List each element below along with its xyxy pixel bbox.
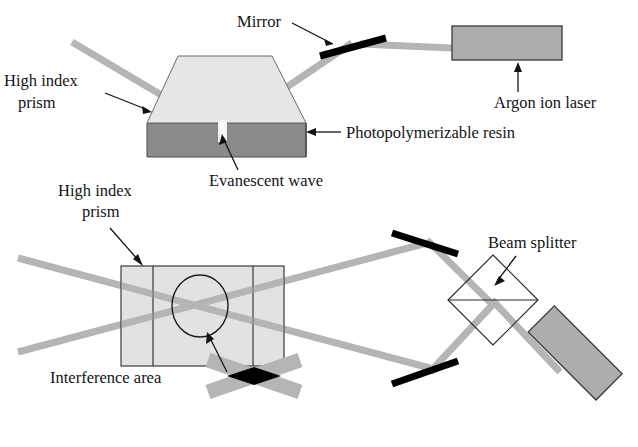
leader-beam-splitter	[494, 256, 516, 286]
figure-canvas: Mirror Argon ion laser High index prism …	[0, 0, 638, 447]
bottom-panel: High index prism Interference area Beam …	[18, 181, 622, 400]
leader-high-index-prism-bottom	[110, 228, 143, 266]
splitter-to-lower-mirror-beam	[430, 300, 497, 372]
leader-mirror	[292, 23, 333, 46]
label-evanescent-wave: Evanescent wave	[209, 171, 323, 190]
label-beam-splitter: Beam splitter	[488, 233, 577, 252]
top-panel: Mirror Argon ion laser High index prism …	[4, 12, 597, 190]
label-mirror: Mirror	[237, 12, 281, 31]
label-high-index-prism-top-line2: prism	[18, 93, 56, 112]
label-high-index-prism-bottom-line1: High index	[58, 181, 133, 200]
high-index-prism-top	[147, 56, 306, 123]
label-interference-area: Interference area	[50, 368, 162, 387]
optical-setup-figure: Mirror Argon ion laser High index prism …	[0, 0, 638, 447]
leader-high-index-prism-top	[105, 93, 152, 114]
label-argon-ion-laser: Argon ion laser	[494, 93, 597, 112]
label-high-index-prism-top-line1: High index	[4, 71, 79, 90]
argon-ion-laser-body	[452, 26, 562, 60]
leader-argon-ion-laser	[514, 62, 522, 92]
label-high-index-prism-bottom-line2: prism	[82, 202, 120, 221]
label-photopolymerizable-resin: Photopolymerizable resin	[346, 123, 515, 142]
leader-photopolymerizable-resin	[306, 128, 341, 136]
